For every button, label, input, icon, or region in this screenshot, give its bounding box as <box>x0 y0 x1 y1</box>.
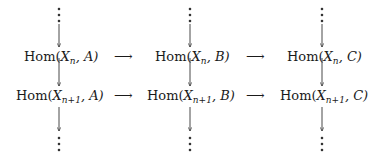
node-hom-xn-b: Hom(Xn, B) <box>155 49 230 65</box>
var-x: X <box>61 49 70 64</box>
hom-label: Hom( <box>147 88 184 103</box>
node-hom-xn-a: Hom(Xn, A) <box>24 49 98 65</box>
object-a: , A) <box>76 49 99 64</box>
arrow-a-to-b-row-n1: ⟶ <box>114 88 133 104</box>
object-a: , A) <box>81 88 104 103</box>
object-b: , B) <box>212 88 235 103</box>
hom-label: Hom( <box>155 49 192 64</box>
subscript: n+1 <box>193 95 212 105</box>
object-c: , C) <box>345 88 368 103</box>
subscript: n+1 <box>62 95 81 105</box>
var-x: X <box>184 88 193 103</box>
object-b: , B) <box>207 49 230 64</box>
var-x: X <box>192 49 201 64</box>
object-c: , C) <box>339 49 362 64</box>
var-x: X <box>53 88 62 103</box>
hom-label: Hom( <box>24 49 61 64</box>
arrow-a-to-b-row-n: ⟶ <box>114 49 133 65</box>
column-a-arrows <box>58 8 60 151</box>
arrow-b-to-c-row-n: ⟶ <box>246 49 265 65</box>
subscript: n+1 <box>326 95 345 105</box>
column-b-arrows <box>189 8 191 151</box>
column-c-arrows <box>321 8 323 151</box>
hom-label: Hom( <box>287 49 324 64</box>
var-x: X <box>324 49 333 64</box>
node-hom-xn1-a: Hom(Xn+1, A) <box>16 88 104 104</box>
vertical-arrows-layer <box>0 0 378 156</box>
node-hom-xn1-c: Hom(Xn+1, C) <box>280 88 368 104</box>
hom-label: Hom( <box>280 88 317 103</box>
arrow-b-to-c-row-n1: ⟶ <box>246 88 265 104</box>
hom-label: Hom( <box>16 88 53 103</box>
node-hom-xn1-b: Hom(Xn+1, B) <box>147 88 235 104</box>
node-hom-xn-c: Hom(Xn, C) <box>287 49 362 65</box>
var-x: X <box>317 88 326 103</box>
